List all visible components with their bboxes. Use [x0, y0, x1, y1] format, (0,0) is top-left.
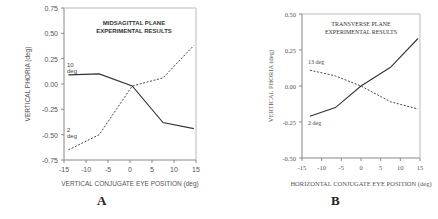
y-axis-label: VERTICAL PHORIA (deg) [267, 50, 275, 122]
x-tick-label: 15 [417, 164, 424, 171]
chart-title: EXPERIMENTAL RESULTS [325, 29, 397, 35]
x-tick-label: -10 [81, 166, 91, 173]
transverse-chart: 0.500.250.00-0.25-0.50-15-10-5051015TRAN… [220, 0, 438, 219]
x-tick-label: 5 [379, 164, 382, 171]
y-tick-label: -0.75 [42, 157, 58, 164]
x-tick-label: 15 [192, 166, 200, 173]
chart-title: TRANSVERSE PLANE [331, 21, 391, 27]
y-tick-label: 0.50 [285, 11, 296, 18]
y-tick-label: 0.25 [285, 47, 296, 54]
panel-label-a: A [97, 193, 106, 209]
plot-area: 0.750.500.250.00-0.25-0.50-0.75-15-10-50… [24, 5, 200, 188]
y-tick-label: -0.50 [282, 155, 296, 162]
y-tick-label: -0.25 [282, 119, 296, 126]
chart-panel-a: 0.750.500.250.00-0.25-0.50-0.75-15-10-50… [0, 0, 220, 219]
panel-label-b: B [331, 193, 340, 209]
y-tick-label: 0.00 [285, 83, 296, 90]
y-tick-label: 0.75 [44, 5, 58, 12]
chart-title: EXPERIMENTAL RESULTS [96, 28, 172, 34]
x-tick-label: -5 [339, 164, 344, 171]
x-axis-label: HORIZONTAL CONJUGATE EYE POSITION (deg) [290, 180, 431, 188]
plot-area: 0.500.250.00-0.25-0.50-15-10-5051015TRAN… [267, 11, 432, 188]
y-tick-label: -0.25 [42, 106, 58, 113]
y-axis-label: VERTICAL PHORIA (deg) [24, 47, 32, 122]
x-axis-label: VERTICAL CONJUGATE EYE POSITION (deg) [61, 180, 199, 188]
y-tick-label: 0.00 [44, 81, 58, 88]
y-tick-label: 0.50 [44, 30, 58, 37]
series-label: 13 deg [308, 59, 324, 65]
series-label: deg [67, 133, 77, 139]
x-tick-label: 10 [397, 164, 404, 171]
x-tick-label: -15 [59, 166, 69, 173]
x-tick-label: -15 [298, 164, 307, 171]
chart-panel-b: 0.500.250.00-0.25-0.50-15-10-5051015TRAN… [220, 0, 438, 219]
x-tick-label: 5 [150, 166, 154, 173]
x-tick-label: 10 [170, 166, 178, 173]
series-line-2-deg [310, 70, 418, 109]
series-line-10-deg [68, 74, 193, 129]
x-tick-label: 0 [359, 164, 362, 171]
y-tick-label: 0.25 [44, 56, 58, 63]
series-line-2-deg [68, 46, 193, 150]
y-tick-label: -0.50 [42, 132, 58, 139]
x-tick-label: 0 [128, 166, 132, 173]
x-tick-label: -5 [105, 166, 111, 173]
series-label: deg [67, 68, 77, 74]
midsagittal-chart: 0.750.500.250.00-0.25-0.50-0.75-15-10-50… [0, 0, 220, 219]
x-tick-label: -10 [317, 164, 326, 171]
series-label: 2 deg [308, 120, 321, 126]
chart-title: MIDSAGITTAL PLANE [103, 20, 165, 26]
